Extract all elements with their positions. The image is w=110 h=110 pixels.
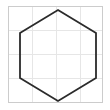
hexagon-figure [0,0,110,110]
plot-canvas [0,0,110,110]
